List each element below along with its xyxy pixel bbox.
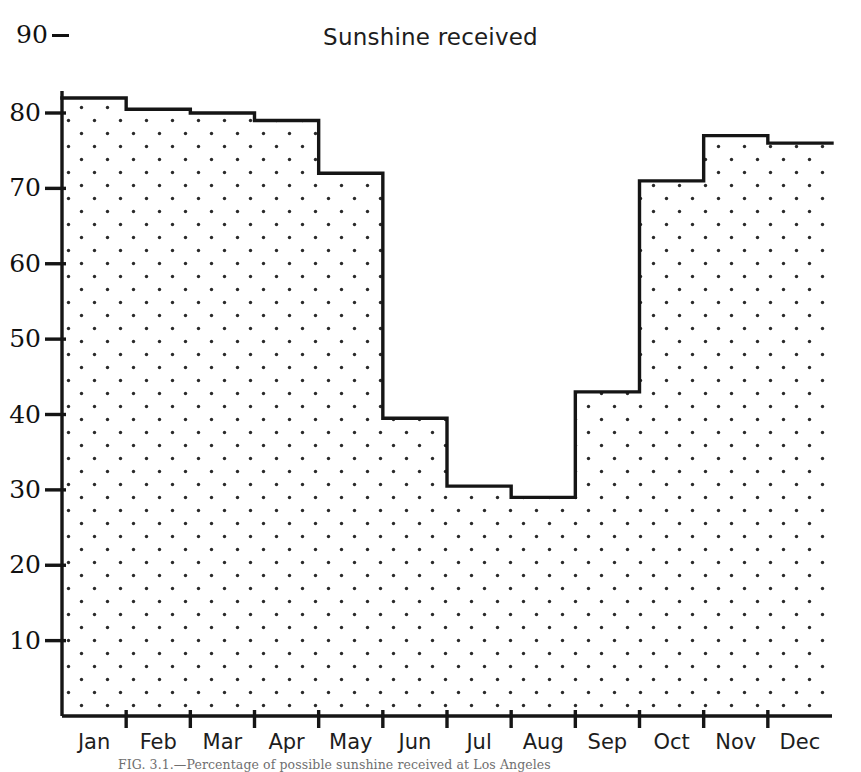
ytick-label-40: 40 [0, 402, 41, 427]
ytick-label-30: 30 [0, 477, 41, 502]
ytick-label-20: 20 [0, 552, 41, 577]
ytick-label-80: 80 [0, 100, 41, 125]
figure-caption: FIG. 3.1.—Percentage of possible sunshin… [118, 757, 798, 772]
ytick-label-60: 60 [0, 251, 41, 276]
xtick-label-mar: Mar [190, 732, 254, 753]
xtick-label-apr: Apr [255, 732, 319, 753]
xtick-label-sep: Sep [575, 732, 639, 753]
xtick-label-oct: Oct [640, 732, 704, 753]
xtick-label-dec: Dec [768, 732, 832, 753]
ytick-label-50: 50 [0, 326, 41, 351]
xtick-label-aug: Aug [511, 732, 575, 753]
xtick-label-nov: Nov [704, 732, 768, 753]
xtick-label-feb: Feb [126, 732, 190, 753]
ytick-label-70: 70 [0, 175, 41, 200]
xtick-label-may: May [319, 732, 383, 753]
plot-area: 8070605040302010 JanFebMarAprMayJunJulAu… [0, 0, 861, 745]
step-chart-svg [0, 0, 861, 745]
xtick-label-jun: Jun [383, 732, 447, 753]
xtick-label-jul: Jul [447, 732, 511, 753]
xtick-label-jan: Jan [62, 732, 126, 753]
figure-container: Sunshine received 90 [0, 0, 861, 772]
ytick-label-10: 10 [0, 628, 41, 653]
step-area-fill [62, 98, 832, 716]
